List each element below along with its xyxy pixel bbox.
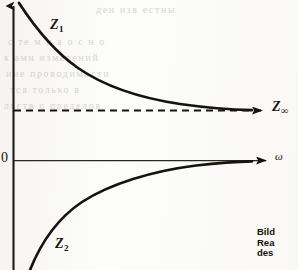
figure-canvas — [0, 0, 298, 270]
figure-caption: Bild Rea des — [257, 227, 298, 259]
curve-label-z2: Z2 — [55, 236, 69, 253]
asymptote-label-z-infinity: Z∞ — [272, 99, 288, 116]
caption-line: des — [257, 248, 298, 259]
caption-line: Bild — [257, 227, 298, 238]
origin-label: 0 — [1, 150, 8, 166]
figure-page: ден изв естны с те м н а о с н о к ами и… — [0, 0, 298, 270]
curve-z2 — [30, 161, 252, 270]
curve-label-z1: Z1 — [50, 17, 64, 34]
omega-axis-label: ω — [275, 150, 283, 162]
